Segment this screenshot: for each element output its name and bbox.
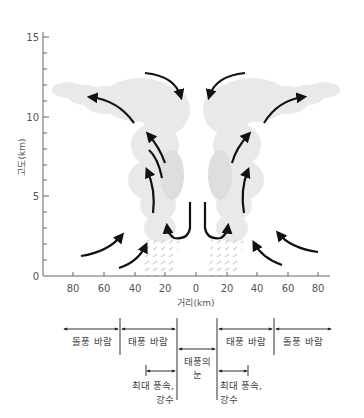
x-tick: 0	[193, 283, 199, 294]
left-cloud	[52, 78, 190, 242]
y-tick-10: 10	[26, 112, 39, 123]
legend-left-max-line1: 최대 풍속,	[132, 380, 174, 391]
y-tick-15: 15	[26, 32, 39, 43]
rain-area	[140, 238, 244, 276]
y-axis	[43, 32, 49, 276]
legend-left-typhoon: 태풍 바람	[128, 336, 167, 347]
x-tick: 80	[67, 283, 80, 294]
y-tick-0: 0	[33, 271, 39, 282]
x-axis	[43, 272, 330, 276]
x-tick: 60	[282, 283, 295, 294]
legend-eye-line1: 태풍의	[184, 356, 211, 367]
typhoon-diagram: 0 5 10 15 고도(km) 80 60 40 20 0 20 40 60 …	[0, 0, 364, 418]
legend-right-typhoon: 태풍 바람	[226, 336, 265, 347]
x-tick: 20	[221, 283, 234, 294]
legend-right-max-line2: 강수	[220, 394, 238, 405]
y-tick-5: 5	[33, 191, 39, 202]
x-axis-title: 거리(km)	[177, 298, 214, 308]
legend-right-gust: 돌풍 바람	[283, 336, 322, 347]
x-tick: 40	[251, 283, 264, 294]
x-tick: 60	[98, 283, 111, 294]
right-cloud	[203, 78, 340, 242]
x-tick: 40	[129, 283, 142, 294]
x-tick: 20	[159, 283, 172, 294]
x-tick: 80	[312, 283, 325, 294]
y-axis-title: 고도(km)	[17, 138, 27, 175]
legend-left-gust: 돌풍 바람	[72, 336, 111, 347]
legend-eye-line2: 눈	[193, 369, 202, 380]
legend-left-max-line2: 강수	[156, 394, 174, 405]
legend-right-max-line1: 최대 풍속,	[220, 380, 262, 391]
